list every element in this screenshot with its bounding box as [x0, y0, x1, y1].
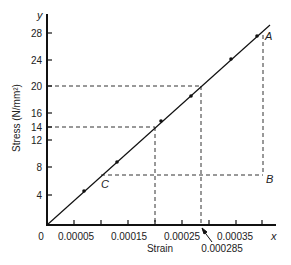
x-axis-symbol: x	[270, 230, 277, 242]
reference-lines	[48, 35, 263, 225]
stress-strain-chart: 28 24 20 16 14 12 8 4 0 0.00005 0.00015 …	[0, 0, 291, 265]
svg-text:28: 28	[31, 28, 43, 39]
y-axis-label: Stress (N/mm²)	[11, 84, 22, 152]
arrow-icon	[202, 228, 212, 242]
y-axis-symbol: y	[36, 9, 44, 21]
svg-text:14: 14	[31, 122, 43, 133]
y-tick-labels: 28 24 20 16 14 12 8 4	[31, 28, 43, 201]
svg-text:8: 8	[36, 162, 42, 173]
svg-text:4: 4	[36, 190, 42, 201]
point-label-c: C	[101, 178, 109, 190]
stress-strain-line	[47, 25, 270, 225]
svg-text:20: 20	[31, 81, 43, 92]
x-axis-label: Strain	[147, 243, 173, 254]
svg-text:16: 16	[31, 108, 43, 119]
svg-text:24: 24	[31, 55, 43, 66]
svg-text:0.00035: 0.00035	[217, 231, 254, 242]
svg-text:0: 0	[38, 231, 44, 242]
svg-text:0.00005: 0.00005	[58, 231, 95, 242]
svg-text:0.00015: 0.00015	[111, 231, 148, 242]
svg-text:12: 12	[31, 135, 43, 146]
point-label-b: B	[266, 173, 273, 185]
point-label-a: A	[264, 30, 272, 42]
svg-text:0.00025: 0.00025	[164, 231, 201, 242]
strain-annotation: 0.000285	[201, 243, 243, 254]
x-tick-labels: 0 0.00005 0.00015 0.00025 0.00035	[38, 231, 253, 242]
